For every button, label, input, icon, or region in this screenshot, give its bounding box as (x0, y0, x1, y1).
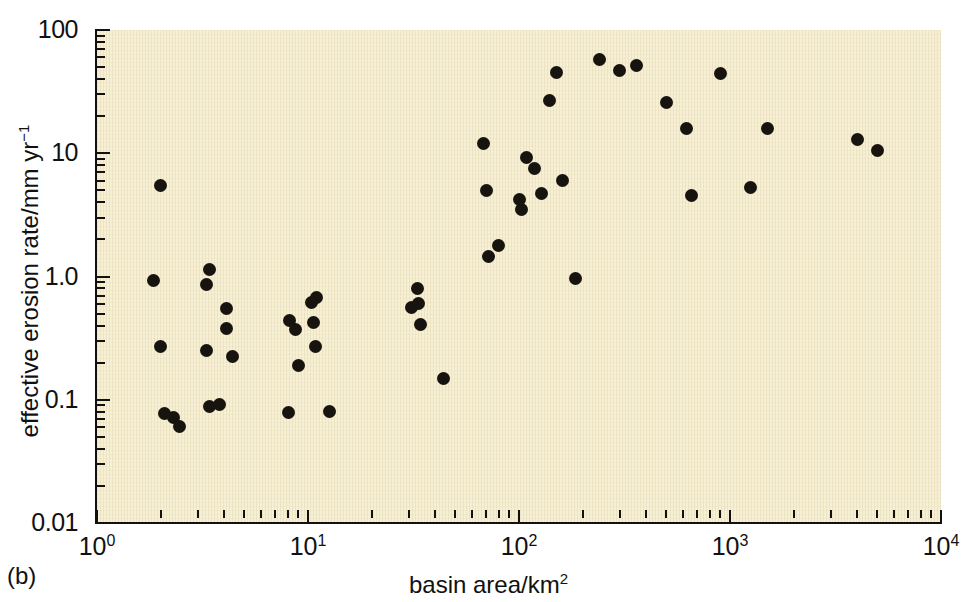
y-axis-minor-tick (97, 426, 105, 428)
y-axis-tick-label: 1.0 (45, 264, 78, 289)
x-axis-minor-tick (471, 510, 473, 518)
x-axis-tick-label: 103 (712, 528, 749, 559)
y-axis-minor-tick (97, 35, 105, 37)
scatter-point (411, 282, 424, 295)
scatter-point (203, 263, 216, 276)
x-axis-tick-base: 10 (712, 532, 740, 560)
y-axis-minor-tick (97, 158, 105, 160)
x-axis-minor-tick (856, 510, 858, 518)
scatter-point (173, 420, 186, 433)
scatter-point (550, 66, 563, 79)
y-axis-minor-tick (97, 48, 105, 50)
scatter-point (323, 405, 336, 418)
x-axis-minor-tick (665, 510, 667, 518)
scatter-point (556, 174, 569, 187)
scatter-point (593, 53, 606, 66)
scatter-point (437, 372, 450, 385)
x-axis-major-tick (307, 510, 309, 523)
y-axis-minor-tick (97, 93, 105, 95)
x-axis-minor-tick (920, 510, 922, 518)
scatter-point (569, 272, 582, 285)
x-axis-tick-exponent: 4 (950, 532, 959, 549)
y-axis-tick-label: 100 (38, 17, 78, 42)
x-axis-minor-tick (485, 510, 487, 518)
y-axis-major-tick (97, 276, 110, 278)
scatter-point (213, 398, 226, 411)
scatter-point (761, 122, 774, 135)
y-axis-minor-tick (97, 217, 105, 219)
x-axis-minor-tick (930, 510, 932, 518)
scatter-point (851, 133, 864, 146)
panel-letter-label: (b) (7, 563, 36, 589)
scatter-point (630, 59, 643, 72)
x-axis-minor-tick (260, 510, 262, 518)
scatter-point (744, 181, 757, 194)
y-axis-minor-tick (97, 41, 105, 43)
y-axis-minor-tick (97, 340, 105, 342)
y-axis-minor-tick (97, 411, 105, 413)
y-axis-minor-tick (97, 303, 105, 305)
x-axis-minor-tick (197, 510, 199, 518)
scatter-point (154, 340, 167, 353)
x-axis-minor-tick (160, 510, 162, 518)
y-axis-title-text: effective erosion rate/mm yr (16, 142, 43, 438)
y-axis-minor-tick (97, 171, 105, 173)
scatter-point (480, 184, 493, 197)
y-axis-minor-tick (97, 281, 105, 283)
x-axis-minor-tick (223, 510, 225, 518)
y-axis-minor-tick (97, 287, 105, 289)
x-axis-minor-tick (582, 510, 584, 518)
y-axis-minor-tick (97, 66, 105, 68)
x-axis-tick-exponent: 3 (739, 532, 748, 549)
scatter-point (492, 239, 505, 252)
y-axis-tick-label: 0.1 (45, 387, 78, 412)
x-axis-minor-tick (876, 510, 878, 518)
y-axis-title-exponent: −1 (15, 125, 32, 142)
x-axis-tick-exponent: 0 (106, 532, 115, 549)
scatter-point (282, 406, 295, 419)
y-axis-minor-tick (97, 295, 105, 297)
y-axis-minor-tick (97, 313, 105, 315)
scatter-point (613, 64, 626, 77)
y-axis-minor-tick (97, 404, 105, 406)
x-axis-tick-base: 10 (290, 532, 318, 560)
scatter-point (680, 122, 693, 135)
x-axis-minor-tick (619, 510, 621, 518)
scatter-point (543, 94, 556, 107)
x-axis-tick-exponent: 2 (528, 532, 537, 549)
x-axis-ticks (0, 510, 977, 530)
x-axis-title: basin area/km2 (0, 566, 977, 598)
scatter-point (289, 323, 302, 336)
y-axis-minor-tick (97, 485, 105, 487)
y-axis-minor-tick (97, 238, 105, 240)
x-axis-major-tick (940, 510, 942, 523)
y-axis-minor-tick (97, 362, 105, 364)
y-axis-minor-tick (97, 189, 105, 191)
x-axis-minor-tick (408, 510, 410, 518)
x-axis-title-exponent: 2 (560, 570, 568, 587)
plot-area (97, 30, 941, 523)
x-axis-tick-base: 10 (923, 532, 951, 560)
x-axis-minor-tick (907, 510, 909, 518)
x-axis-minor-tick (830, 510, 832, 518)
y-axis-minor-tick (97, 325, 105, 327)
scatter-point (292, 359, 305, 372)
x-axis-minor-tick (793, 510, 795, 518)
x-axis-major-tick (96, 510, 98, 523)
x-axis-minor-tick (719, 510, 721, 518)
y-axis-minor-tick (97, 164, 105, 166)
x-axis-tick-labels: 100101102103104 (0, 528, 977, 568)
y-axis-title: effective erosion rate/mm yr−1 (11, 46, 43, 516)
x-axis-title-text: basin area/km (409, 571, 560, 598)
y-axis-minor-tick (97, 463, 105, 465)
y-axis-minor-tick (97, 180, 105, 182)
scatter-point (660, 96, 673, 109)
x-axis-minor-tick (287, 510, 289, 518)
y-axis-minor-tick (97, 115, 105, 117)
x-axis-tick-label: 101 (290, 528, 327, 559)
y-axis-major-tick (97, 399, 110, 401)
x-axis-major-tick (518, 510, 520, 523)
x-axis-minor-tick (645, 510, 647, 518)
x-axis-minor-tick (274, 510, 276, 518)
y-axis-minor-tick (97, 78, 105, 80)
